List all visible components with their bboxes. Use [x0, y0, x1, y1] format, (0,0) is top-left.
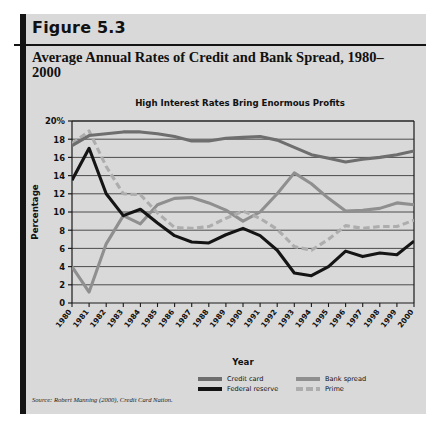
y-tick-label: 16: [53, 153, 65, 163]
figure-left-rule: [20, 14, 26, 414]
legend-item-bank-spread[interactable]: Bank spread: [296, 375, 394, 383]
x-axis-title: Year: [231, 357, 254, 367]
x-tick-label: 1984: [122, 308, 142, 330]
x-tick-label: 1982: [88, 308, 108, 330]
y-tick-label: 20%: [45, 116, 66, 126]
x-tick-label: 2000: [396, 308, 416, 330]
legend-item-prime[interactable]: Prime: [296, 385, 394, 393]
legend-label: Federal reserve: [227, 385, 278, 393]
x-tick-label: 1998: [362, 308, 382, 330]
y-tick-label: 4: [59, 262, 65, 272]
x-tick-label: 1991: [242, 308, 262, 330]
legend-swatch-bank-spread-icon: [296, 377, 320, 381]
figure-number-label: Figure 5.3: [32, 18, 126, 37]
series-line-credit-card: [72, 132, 414, 162]
series-line-prime: [72, 131, 414, 250]
source-note: Source: Robert Manning (2000), Credit Ca…: [32, 396, 173, 403]
series-line-federal-reserve: [72, 148, 414, 275]
x-tick-label: 1995: [310, 308, 330, 330]
x-tick-label: 1990: [225, 308, 245, 330]
legend-row: Credit cardBank spread: [198, 374, 418, 384]
x-tick-label: 1988: [191, 308, 211, 330]
series-line-bank-spread: [72, 173, 414, 292]
legend-swatch-prime-icon: [296, 387, 320, 391]
legend-item-credit-card[interactable]: Credit card: [198, 375, 296, 383]
x-tick-label: 1985: [139, 308, 159, 330]
legend-item-federal-reserve[interactable]: Federal reserve: [198, 385, 296, 393]
legend-label: Prime: [325, 385, 344, 393]
x-tick-label: 1986: [156, 308, 176, 330]
x-tick-label: 1980: [54, 308, 74, 330]
y-axis-title: Percentage: [30, 184, 40, 239]
figure-underline: [14, 44, 426, 46]
legend-label: Credit card: [227, 375, 263, 383]
legend-swatch-federal-reserve-icon: [198, 387, 222, 391]
y-tick-label: 8: [59, 226, 65, 236]
x-tick-label: 1993: [276, 308, 296, 330]
legend-label: Bank spread: [325, 375, 366, 383]
y-tick-label: 2: [59, 280, 65, 290]
figure-title: Average Annual Rates of Credit and Bank …: [32, 50, 402, 80]
x-tick-label: 1989: [208, 308, 228, 330]
y-tick-label: 0: [59, 298, 65, 308]
legend-row: Federal reservePrime: [198, 384, 418, 394]
x-tick-label: 1994: [293, 308, 313, 330]
y-tick-label: 18: [53, 135, 65, 145]
chart-legend: Credit cardBank spreadFederal reservePri…: [198, 374, 418, 394]
series-group: [72, 131, 414, 292]
y-tick-label: 14: [53, 171, 65, 181]
source-book-title: Credit Card Nation.: [120, 396, 173, 403]
x-tick-label: 1992: [259, 308, 279, 330]
x-tick-label: 1987: [174, 308, 194, 330]
x-tick-label: 1981: [71, 308, 91, 330]
y-tick-label: 6: [59, 244, 65, 254]
x-tick-label: 1999: [379, 308, 399, 330]
legend-swatch-credit-card-icon: [198, 377, 222, 381]
x-tick-label: 1997: [345, 308, 365, 330]
chart-title: High Interest Rates Bring Enormous Profi…: [50, 98, 430, 108]
y-tick-label: 12: [53, 189, 65, 199]
y-tick-label: 10: [53, 207, 65, 217]
source-prefix: Source: Robert Manning (2000),: [32, 396, 118, 403]
x-tick-label: 1983: [105, 308, 125, 330]
x-tick-label: 1996: [327, 308, 347, 330]
